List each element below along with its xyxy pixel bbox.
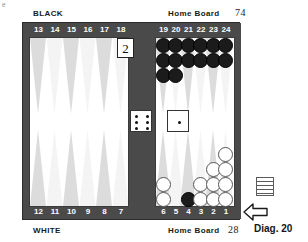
corner-artifact: e [2,1,6,9]
checker-black-point-24[interactable] [218,38,233,53]
backgammon-diagram: e BLACK Home Board 74 WHITE Home Board 2… [0,0,308,242]
die-pip [135,115,138,118]
die-pip [146,127,149,130]
checker-white-point-1[interactable] [218,177,233,192]
checker-white-point-1[interactable] [218,147,233,162]
die-right[interactable] [167,110,189,132]
checker-white-point-6[interactable] [156,177,171,192]
die-pip [135,127,138,130]
white-player-label: WHITE [33,226,61,235]
text-lines-icon [256,177,274,196]
die-pip [146,115,149,118]
black-home-board-label: Home Board [168,9,220,18]
checker-black-point-20[interactable] [168,68,183,83]
die-left[interactable] [130,110,152,132]
left-arrow-icon [242,203,270,221]
checker-white-point-6[interactable] [156,192,171,207]
checker-black-point-24[interactable] [218,53,233,68]
white-home-board-label: Home Board [168,226,220,235]
diagram-caption: Diag. 20 [254,223,292,234]
doubling-cube[interactable]: 2 [117,38,134,58]
die-pip [135,121,138,124]
black-player-label: BLACK [33,9,63,18]
white-pip-count: 28 [228,224,239,235]
checker-white-point-1[interactable] [218,192,233,207]
die-pip [146,121,149,124]
die-pip [178,121,181,124]
black-pip-count: 74 [235,7,246,18]
checker-white-point-1[interactable] [218,162,233,177]
